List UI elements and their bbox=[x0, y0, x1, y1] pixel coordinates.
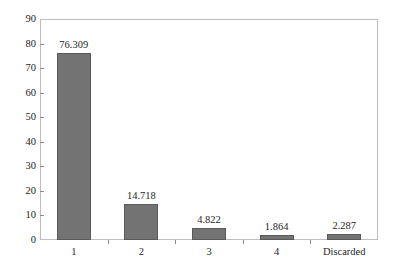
bar-value-label: 1.864 bbox=[247, 221, 307, 232]
y-axis-tick-label: 80 bbox=[26, 39, 37, 49]
y-axis-tick-label: 50 bbox=[26, 112, 37, 122]
bar bbox=[327, 234, 361, 240]
y-axis-tick-label: 20 bbox=[26, 186, 37, 196]
y-axis-tick-labels: 0102030405060708090 bbox=[0, 0, 36, 271]
y-axis-tick-label: 90 bbox=[26, 14, 37, 24]
bar-value-label: 14.718 bbox=[111, 190, 171, 201]
x-axis-tick-mark bbox=[108, 240, 109, 244]
y-axis-tick-label: 60 bbox=[26, 88, 37, 98]
x-axis-tick-mark bbox=[243, 240, 244, 244]
bar-value-label: 4.822 bbox=[179, 214, 239, 225]
y-axis-tick-label: 30 bbox=[26, 161, 37, 171]
bar bbox=[192, 228, 226, 240]
y-axis-tick-label: 10 bbox=[26, 210, 37, 220]
bar bbox=[124, 204, 158, 240]
x-axis-tick-mark bbox=[310, 240, 311, 244]
x-axis-category-label: Discarded bbox=[304, 246, 384, 257]
bar-value-label: 76.309 bbox=[44, 39, 104, 50]
bar bbox=[57, 53, 91, 240]
x-axis-tick-mark bbox=[175, 240, 176, 244]
y-axis-tick-label: 70 bbox=[26, 63, 37, 73]
plot-area bbox=[40, 19, 378, 240]
y-axis-tick-label: 0 bbox=[31, 235, 36, 245]
bar bbox=[260, 235, 294, 240]
y-axis-tick-label: 40 bbox=[26, 137, 37, 147]
bar-chart: 0102030405060708090 76.30914.7184.8221.8… bbox=[0, 0, 400, 271]
bar-value-label: 2.287 bbox=[314, 220, 374, 231]
